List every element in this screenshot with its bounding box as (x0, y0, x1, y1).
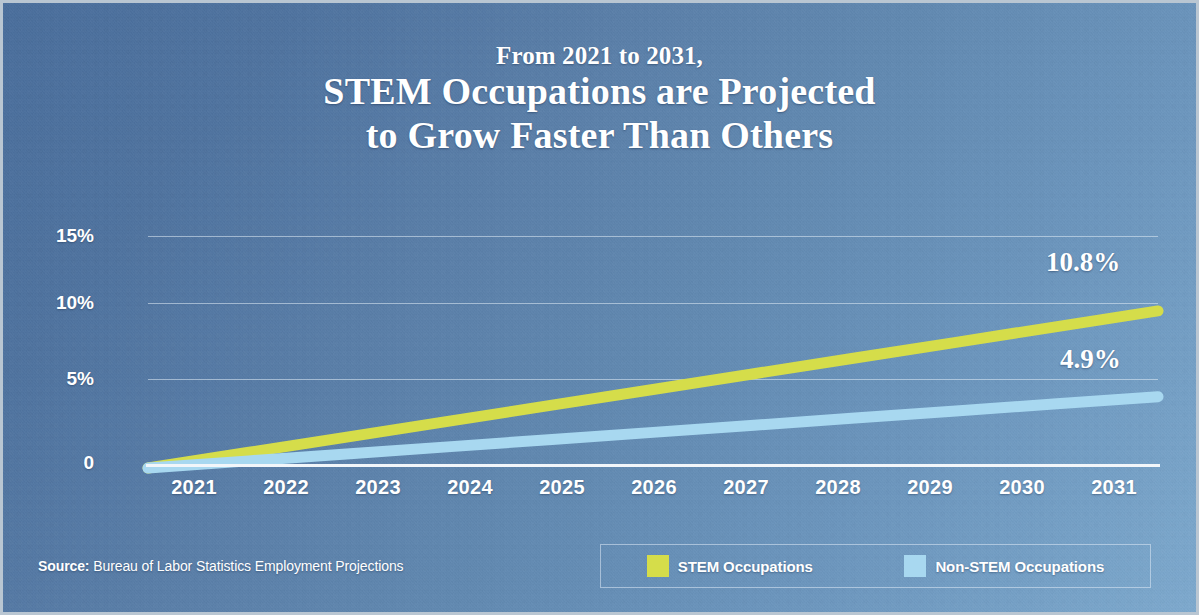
series-line-stem (148, 311, 1158, 468)
x-axis-labels: 2021 2022 2023 2024 2025 2026 2027 2028 … (148, 476, 1160, 499)
source-note: Source: Bureau of Labor Statistics Emplo… (38, 558, 403, 574)
x-axis-tick-2021: 2021 (148, 476, 240, 499)
y-axis-tick-0: 0 (4, 452, 94, 474)
x-axis-tick-2027: 2027 (700, 476, 792, 499)
plot-area (148, 228, 1158, 468)
legend-swatch-nonstem-icon (904, 555, 926, 577)
title-kicker: From 2021 to 2031, (0, 42, 1199, 70)
x-axis-tick-2024: 2024 (424, 476, 516, 499)
y-axis-tick-5: 5% (4, 368, 94, 390)
source-label: Source: (38, 558, 89, 574)
source-text: Bureau of Labor Statistics Employment Pr… (89, 558, 403, 574)
series-plot-svg (148, 228, 1158, 468)
x-axis-tick-2031: 2031 (1068, 476, 1160, 499)
legend-swatch-stem-icon (647, 555, 669, 577)
data-label-stem: 10.8% (1046, 247, 1120, 278)
x-axis-tick-2029: 2029 (884, 476, 976, 499)
legend-label-nonstem: Non-STEM Occupations (935, 558, 1104, 575)
x-axis-baseline (146, 464, 1160, 467)
legend-label-stem: STEM Occupations (678, 558, 813, 575)
data-label-nonstem: 4.9% (1060, 344, 1121, 375)
x-axis-tick-2028: 2028 (792, 476, 884, 499)
chart-title-block: From 2021 to 2031, STEM Occupations are … (0, 42, 1199, 157)
x-axis-tick-2026: 2026 (608, 476, 700, 499)
legend-item-nonstem[interactable]: Non-STEM Occupations (904, 555, 1104, 577)
x-axis-tick-2022: 2022 (240, 476, 332, 499)
y-axis-tick-15: 15% (4, 225, 94, 247)
x-axis-tick-2023: 2023 (332, 476, 424, 499)
title-line-1: STEM Occupations are Projected (0, 70, 1199, 114)
series-line-nonstem (148, 397, 1158, 468)
stem-growth-chart-card: From 2021 to 2031, STEM Occupations are … (0, 0, 1199, 615)
x-axis-tick-2030: 2030 (976, 476, 1068, 499)
x-axis-tick-2025: 2025 (516, 476, 608, 499)
title-line-2: to Grow Faster Than Others (0, 114, 1199, 158)
chart-legend: STEM Occupations Non-STEM Occupations (600, 544, 1151, 588)
legend-item-stem[interactable]: STEM Occupations (647, 555, 813, 577)
y-axis-tick-10: 10% (4, 292, 94, 314)
